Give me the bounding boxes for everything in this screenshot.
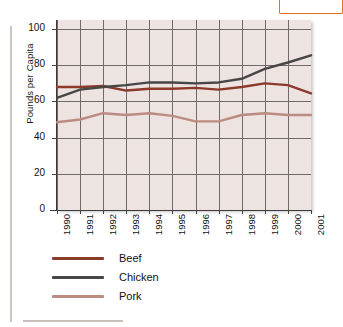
series-line	[57, 113, 311, 122]
legend-color-swatch	[52, 295, 104, 298]
x-tick-mark	[126, 210, 127, 214]
x-tick-mark	[311, 210, 312, 214]
x-tick-label: 1993	[130, 214, 141, 235]
x-tick-label: 1996	[200, 214, 211, 235]
x-tick-label: 1999	[269, 214, 280, 235]
x-tick-mark	[149, 210, 150, 214]
y-tick-label: 100	[5, 22, 45, 33]
chart-legend: BeefChickenPork	[52, 250, 252, 307]
legend-label: Pork	[119, 288, 142, 305]
x-tick-label: 1990	[61, 214, 72, 235]
plot-area	[57, 20, 311, 210]
legend-label: Beef	[119, 250, 142, 267]
bottom-horizontal-rule	[23, 320, 123, 322]
series-lines	[57, 20, 311, 210]
legend-item[interactable]: Beef	[52, 250, 252, 269]
x-axis-line	[50, 210, 311, 212]
x-tick-mark	[103, 210, 104, 214]
x-tick-mark	[80, 210, 81, 214]
y-tick-label: 60	[5, 94, 45, 105]
y-axis-title: Pounds per Capita	[24, 29, 35, 139]
x-tick-label: 2001	[315, 214, 326, 235]
x-tick-label: 1995	[176, 214, 187, 235]
x-tick-mark	[265, 210, 266, 214]
legend-color-swatch	[52, 257, 104, 260]
x-tick-label: 1998	[246, 214, 257, 235]
x-tick-label: 2000	[292, 214, 303, 235]
x-tick-label: 1997	[223, 214, 234, 235]
line-chart: Pounds per Capita 020406080100 199019911…	[0, 0, 331, 260]
legend-item[interactable]: Chicken	[52, 269, 252, 288]
x-tick-mark	[196, 210, 197, 214]
x-tick-mark	[172, 210, 173, 214]
legend-color-swatch	[52, 276, 104, 279]
x-tick-mark	[242, 210, 243, 214]
x-tick-mark	[288, 210, 289, 214]
legend-label: Chicken	[119, 269, 159, 286]
y-tick-label: 20	[5, 167, 45, 178]
x-tick-label: 1992	[107, 214, 118, 235]
y-tick-label: 0	[5, 203, 45, 214]
series-line	[57, 55, 311, 98]
x-tick-mark	[219, 210, 220, 214]
y-tick-label: 80	[5, 58, 45, 69]
x-tick-label: 1994	[153, 214, 164, 235]
x-tick-label: 1991	[84, 214, 95, 235]
y-tick-label: 40	[5, 131, 45, 142]
x-tick-mark	[57, 210, 58, 214]
legend-item[interactable]: Pork	[52, 288, 252, 307]
